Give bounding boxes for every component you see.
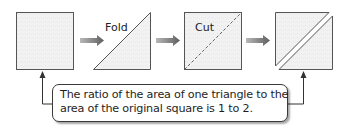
arrow-right-icon	[156, 35, 180, 46]
original-square	[17, 13, 74, 70]
ratio-callout: The ratio of the area of one triangle to…	[52, 84, 288, 122]
connector-arrow-left	[40, 71, 53, 104]
callout-line-1: The ratio of the area of one triangle to…	[60, 88, 281, 102]
connector-arrow-right	[288, 71, 307, 104]
arrow-right-icon	[80, 35, 104, 46]
two-triangles	[276, 13, 333, 70]
callout-line-2: area of the original square is 1 to 2.	[60, 102, 281, 116]
arrow-right-icon	[246, 35, 270, 46]
fold-label: Fold	[105, 22, 128, 33]
cut-label: Cut	[195, 22, 214, 33]
